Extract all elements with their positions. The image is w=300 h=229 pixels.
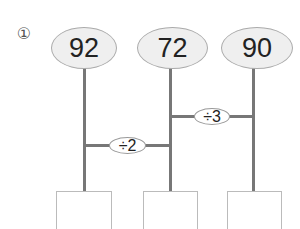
- problem-number-label: ①: [16, 26, 32, 42]
- operation-divide-2: ÷2: [109, 137, 146, 154]
- stem-3: [252, 68, 255, 192]
- answer-box-1[interactable]: [56, 191, 112, 229]
- operation-divide-3: ÷3: [194, 108, 230, 125]
- stem-2: [169, 68, 172, 192]
- answer-box-2[interactable]: [143, 191, 198, 229]
- stem-1: [83, 68, 86, 192]
- top-number-3: 90: [221, 27, 293, 69]
- top-number-2: 72: [137, 27, 208, 69]
- top-number-1: 92: [51, 27, 117, 69]
- answer-box-3[interactable]: [227, 191, 282, 229]
